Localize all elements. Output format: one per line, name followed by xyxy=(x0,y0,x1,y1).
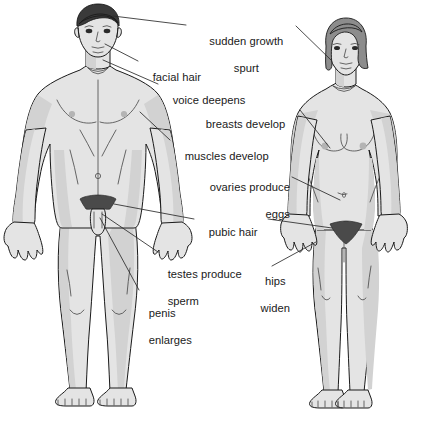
label-line-1: testes produce xyxy=(168,268,242,280)
label-penis-enlarges: penis enlarges xyxy=(136,294,208,361)
label-line-1: sudden growth xyxy=(209,35,283,47)
label-line-2: enlarges xyxy=(149,334,192,346)
label-pubic-hair: pubic hair xyxy=(196,213,270,253)
leader-sudden-growth-spurt-male xyxy=(113,16,186,25)
label-line-1: hips xyxy=(265,275,286,287)
label-line-2: spurt xyxy=(234,62,259,74)
label-line-1: penis xyxy=(149,307,176,319)
label-line-1: breasts develop xyxy=(206,118,286,130)
female-figure-group xyxy=(281,18,408,408)
puberty-diagram: .sk{fill:#e4e4e4;stroke:#1a1a1a;stroke-w… xyxy=(0,0,432,430)
label-line-1: ovaries produce xyxy=(210,181,290,193)
label-line-1: muscles develop xyxy=(185,150,269,162)
label-line-2: widen xyxy=(261,302,290,314)
label-hips-widen: hips widen xyxy=(245,262,293,329)
label-line-1: pubic hair xyxy=(209,226,258,238)
